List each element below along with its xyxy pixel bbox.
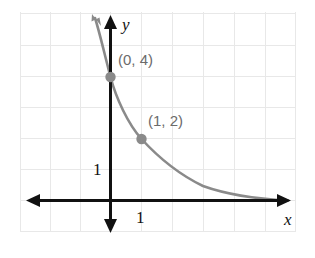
x-axis-unit-tick-label: 1 xyxy=(136,209,145,226)
x-axis-label: x xyxy=(284,211,292,228)
point-label-1-2: (1, 2) xyxy=(148,113,183,128)
y-axis-unit-tick-label: 1 xyxy=(93,161,102,178)
data-point-0-4 xyxy=(105,72,115,82)
x-axis-left-arrow-icon xyxy=(26,194,40,207)
exponential-decay-graph: (0, 4) (1, 2) y x 1 1 xyxy=(0,0,315,258)
data-point-1-2 xyxy=(136,134,146,144)
y-axis-label: y xyxy=(122,16,130,33)
y-axis-down-arrow-icon xyxy=(104,219,117,233)
y-axis-up-arrow-icon xyxy=(104,15,117,29)
plot-canvas xyxy=(0,0,315,258)
point-label-0-4: (0, 4) xyxy=(118,52,153,67)
x-axis-right-arrow-icon xyxy=(277,194,291,207)
